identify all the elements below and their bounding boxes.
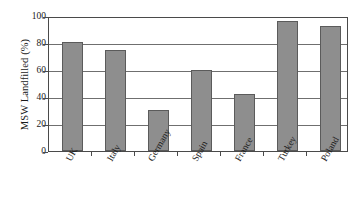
y-tick-label-100: 100 xyxy=(18,12,46,22)
y-tick-label-40: 40 xyxy=(18,93,46,103)
bar-uk xyxy=(62,42,83,151)
bar-italy xyxy=(105,50,126,151)
x-tick-mark-1 xyxy=(91,152,92,156)
x-tick-mark-2 xyxy=(134,152,135,156)
x-tick-mark-6 xyxy=(306,152,307,156)
y-tick-label-0: 0 xyxy=(18,147,46,157)
y-tick-label-80: 80 xyxy=(18,39,46,49)
y-tick-label-60: 60 xyxy=(18,66,46,76)
y-tick-mark-0 xyxy=(43,152,48,153)
x-tick-mark-4 xyxy=(220,152,221,156)
gridline-80 xyxy=(49,44,347,45)
y-axis-title: MSW Landfilled (%) xyxy=(19,10,30,160)
x-tick-mark-3 xyxy=(177,152,178,156)
plot-area xyxy=(48,17,348,152)
x-tick-mark-5 xyxy=(263,152,264,156)
bar-chart-figure: MSW Landfilled (%) 100 80 60 40 20 0 xyxy=(0,0,360,203)
bar-turkey xyxy=(277,21,298,151)
y-tick-label-20: 20 xyxy=(18,120,46,130)
bar-poland xyxy=(320,26,341,151)
